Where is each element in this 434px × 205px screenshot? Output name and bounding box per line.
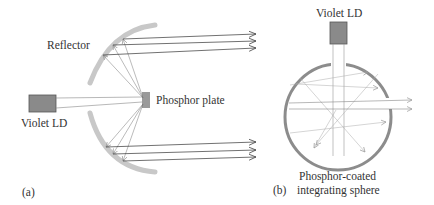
violet-ld-laser-a [29,95,56,112]
violet-ld-label-b: Violet LD [316,7,362,20]
integrating-sphere [285,64,391,170]
reflector-label: Reflector [47,39,90,52]
phosphor-plate-label: Phosphor plate [156,94,225,107]
panel-b [285,22,412,170]
violet-ld-label-a: Violet LD [21,117,67,130]
panel-b-label: (b) [273,184,286,197]
phosphor-plate [142,92,150,108]
sphere-label-line2: integrating sphere [297,184,380,197]
panel-a-label: (a) [22,186,35,199]
sphere-label-line1: Phosphor-coated [299,170,376,183]
violet-ld-laser-b [330,22,347,44]
reflector-lower [90,113,155,172]
